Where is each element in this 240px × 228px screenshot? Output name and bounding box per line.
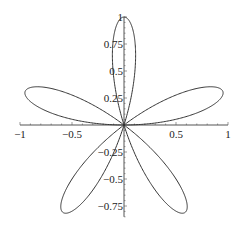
y-tick-label: −0.75 — [98, 200, 124, 212]
y-tick-label: 0.25 — [104, 92, 124, 104]
x-tick-label: −0.5 — [62, 128, 82, 140]
y-tick-label: 0.75 — [104, 38, 124, 50]
y-tick-label: 0.5 — [109, 65, 123, 77]
rose-curve-plot: −1−0.50.5110.750.50.25−0.25−0.5−0.75 — [0, 0, 240, 228]
y-tick-label: −0.5 — [103, 173, 123, 185]
x-tick-label: 1 — [225, 128, 231, 140]
x-tick-label: −1 — [14, 128, 26, 140]
y-tick-label: −0.25 — [98, 146, 124, 158]
x-tick-label: 0.5 — [169, 128, 183, 140]
y-tick-label: 1 — [118, 11, 124, 23]
axes — [20, 17, 228, 217]
